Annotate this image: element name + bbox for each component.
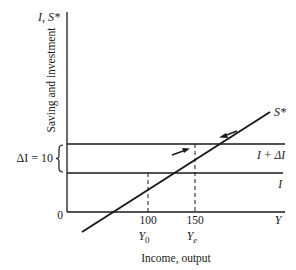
- saving-investment-diagram: I, S* Saving and investment ΔI = 10 0 S*…: [0, 0, 296, 270]
- tick-label-ye: Ye: [187, 229, 198, 245]
- tick-value-ye: 150: [186, 214, 204, 226]
- y-axis-title: Saving and investment: [45, 27, 58, 133]
- arrow-right-icon: [172, 148, 190, 155]
- saving-line: [82, 112, 270, 232]
- x-axis-symbol: Y: [275, 213, 283, 227]
- tick-label-y0-sub: 0: [145, 235, 150, 245]
- investment-label: I: [277, 178, 283, 190]
- origin-label: 0: [57, 209, 63, 221]
- saving-line-label: S*: [274, 105, 286, 119]
- tick-label-y0: Y0: [138, 229, 150, 245]
- x-axis-title: Income, output: [141, 252, 211, 265]
- tick-value-y0: 100: [139, 214, 157, 226]
- y-axis-symbol: I, S*: [37, 10, 60, 24]
- investment-shifted-label: I + ΔI: [256, 149, 286, 161]
- brace-label: ΔI = 10: [17, 151, 53, 165]
- delta-i-brace: [56, 145, 63, 172]
- tick-label-ye-sub: e: [193, 235, 197, 245]
